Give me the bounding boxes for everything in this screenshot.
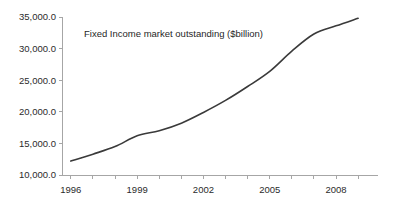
line-chart: 10,000.015,000.020,000.025,000.030,000.0… [0,0,399,210]
chart-container: 10,000.015,000.020,000.025,000.030,000.0… [0,0,399,210]
x-axis-tick-label: 2002 [193,184,214,195]
y-axis-tick-label: 35,000.0 [19,11,56,22]
y-axis-tick-label: 10,000.0 [19,169,56,180]
chart-title: Fixed Income market outstanding ($billio… [84,28,263,39]
y-axis-tick-label: 15,000.0 [19,138,56,149]
x-axis-tick-label: 2008 [325,184,346,195]
x-axis-tick-label: 1996 [60,184,81,195]
x-axis-tick-labels: 19961999200220052008 [60,184,346,195]
x-axis-tick-marks [71,175,358,179]
data-series-line [71,18,358,161]
y-axis-tick-labels: 10,000.015,000.020,000.025,000.030,000.0… [19,11,56,180]
x-axis-tick-label: 1999 [127,184,148,195]
y-axis-tick-label: 30,000.0 [19,43,56,54]
y-axis-tick-label: 25,000.0 [19,75,56,86]
y-axis-tick-label: 20,000.0 [19,106,56,117]
x-axis-tick-label: 2005 [259,184,280,195]
